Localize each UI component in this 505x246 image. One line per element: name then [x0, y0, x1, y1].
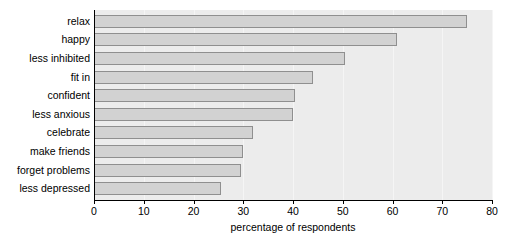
- tick-mark-20: [194, 200, 195, 204]
- bar-less-inhibited: [94, 52, 345, 65]
- bar-row: [94, 145, 492, 158]
- gridline-80: [492, 10, 493, 200]
- tick-mark-80: [492, 200, 493, 204]
- x-tick-label-30: 30: [237, 205, 249, 217]
- x-axis-title: percentage of respondents: [94, 221, 492, 233]
- x-tick-label-20: 20: [188, 205, 200, 217]
- tick-mark-40: [293, 200, 294, 204]
- y-label-make-friends: make friends: [2, 145, 90, 158]
- x-tick-label-10: 10: [138, 205, 150, 217]
- bar-confident: [94, 89, 295, 102]
- bar-forget-problems: [94, 164, 241, 177]
- tick-mark-60: [393, 200, 394, 204]
- bar-chart: relaxhappyless inhibitedfit inconfidentl…: [0, 0, 505, 246]
- tick-mark-30: [243, 200, 244, 204]
- bar-row: [94, 89, 492, 102]
- tick-mark-0: [94, 200, 95, 204]
- y-axis-category-labels: relaxhappyless inhibitedfit inconfidentl…: [0, 10, 90, 200]
- x-tick-label-40: 40: [287, 205, 299, 217]
- x-tick-label-70: 70: [436, 205, 448, 217]
- y-axis-line: [94, 10, 95, 201]
- y-label-forget-problems: forget problems: [2, 164, 90, 177]
- x-tick-label-60: 60: [387, 205, 399, 217]
- x-tick-label-0: 0: [91, 205, 97, 217]
- bar-row: [94, 182, 492, 195]
- bar-row: [94, 71, 492, 84]
- bar-row: [94, 15, 492, 28]
- y-label-confident: confident: [2, 89, 90, 102]
- plot-area: [94, 10, 492, 200]
- y-label-less-anxious: less anxious: [2, 108, 90, 121]
- y-label-relax: relax: [2, 15, 90, 28]
- bar-row: [94, 108, 492, 121]
- bar-celebrate: [94, 126, 253, 139]
- bar-row: [94, 126, 492, 139]
- x-tick-label-50: 50: [337, 205, 349, 217]
- bar-less-anxious: [94, 108, 293, 121]
- bar-fit-in: [94, 71, 313, 84]
- bar-happy: [94, 33, 397, 46]
- tick-mark-50: [343, 200, 344, 204]
- tick-mark-70: [442, 200, 443, 204]
- y-label-fit-in: fit in: [2, 71, 90, 84]
- bar-row: [94, 164, 492, 177]
- bar-series: [94, 10, 492, 200]
- y-label-less-depressed: less depressed: [2, 182, 90, 195]
- y-label-happy: happy: [2, 33, 90, 46]
- bar-less-depressed: [94, 182, 221, 195]
- bar-row: [94, 52, 492, 65]
- y-label-less-inhibited: less inhibited: [2, 52, 90, 65]
- bar-make-friends: [94, 145, 243, 158]
- bar-row: [94, 33, 492, 46]
- bar-relax: [94, 15, 467, 28]
- x-tick-label-80: 80: [486, 205, 498, 217]
- y-label-celebrate: celebrate: [2, 126, 90, 139]
- tick-mark-10: [144, 200, 145, 204]
